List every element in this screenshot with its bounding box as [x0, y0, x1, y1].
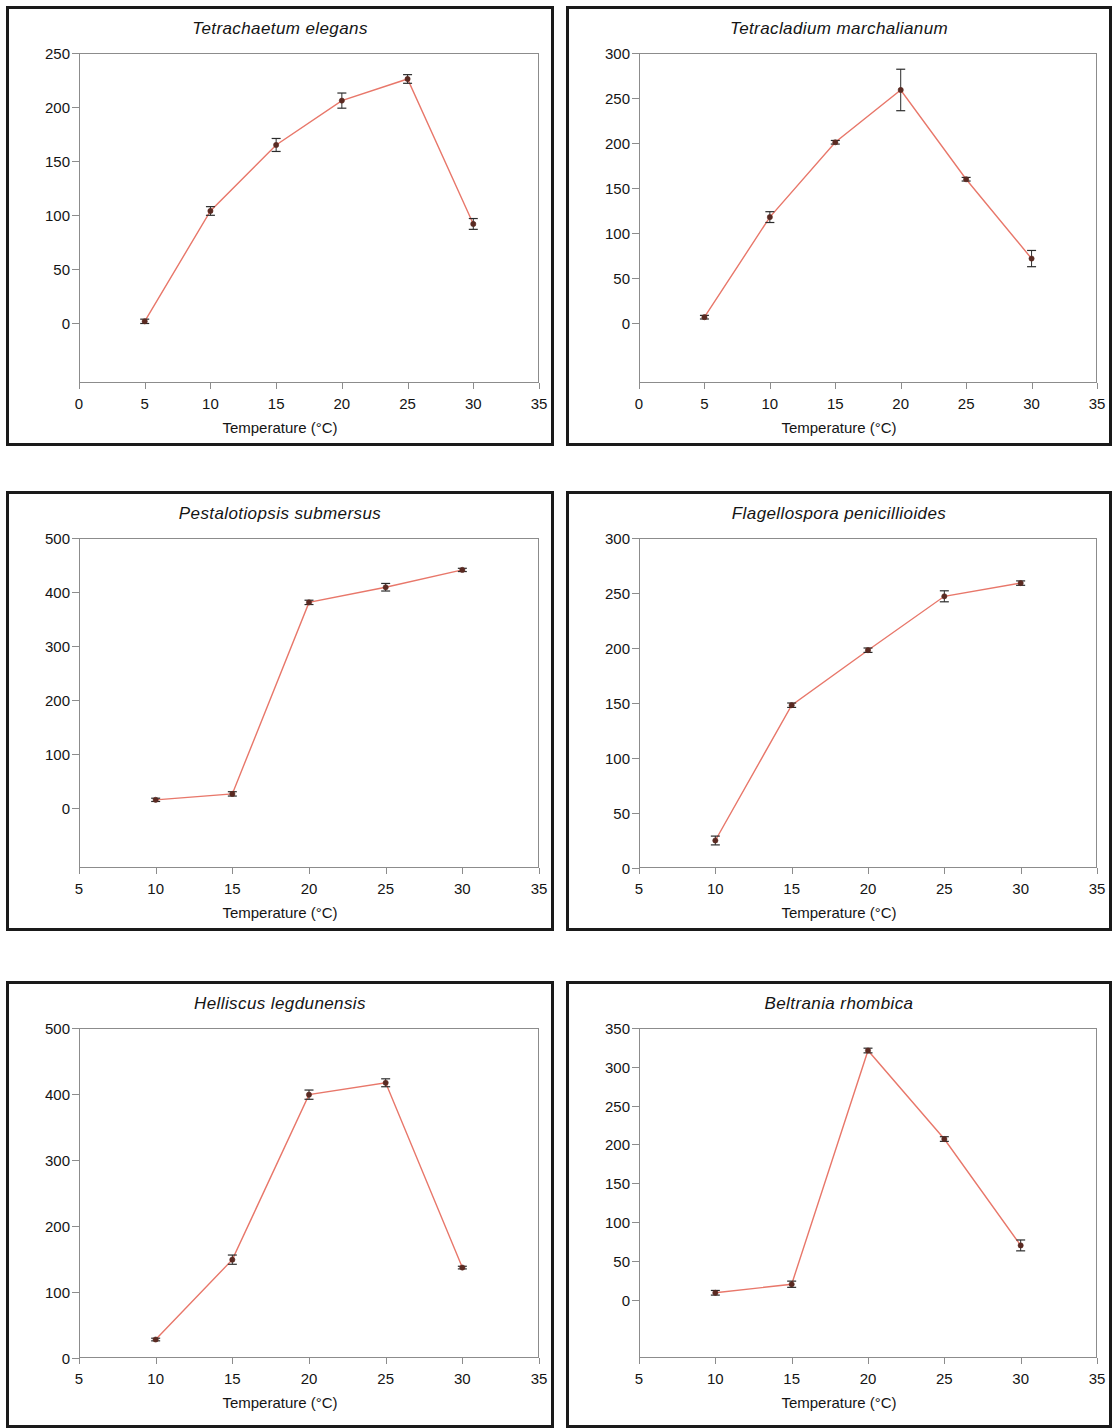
y-axis-tick-mark — [72, 1226, 79, 1227]
chart-title: Beltrania rhombica — [569, 994, 1109, 1014]
data-point — [896, 69, 905, 110]
x-axis-tick-mark — [1021, 1358, 1022, 1364]
plot-area: 01002003004005005101520253035 — [79, 538, 539, 868]
x-axis-tick-label: 20 — [860, 880, 877, 897]
chart-panel-pestalotiopsis-submersus: Pestalotiopsis submersus0100200300400500… — [6, 491, 554, 931]
y-axis-tick-mark — [632, 98, 639, 99]
y-axis-tick-mark — [632, 758, 639, 759]
x-axis-tick-label: 10 — [762, 395, 779, 412]
data-point — [140, 319, 149, 324]
chart-title: Helliscus legdunensis — [9, 994, 551, 1014]
x-axis-tick-label: 5 — [75, 1370, 83, 1387]
chart-panel-beltrania-rhombica: Beltrania rhombica0501001502002503003505… — [566, 981, 1112, 1428]
data-point — [864, 648, 873, 653]
x-axis-tick-label: 15 — [268, 395, 285, 412]
y-axis-tick-mark — [632, 538, 639, 539]
x-axis-tick-label: 35 — [1089, 395, 1106, 412]
x-axis-tick-mark — [539, 383, 540, 389]
x-axis-tick-label: 25 — [399, 395, 416, 412]
series-marker — [713, 1290, 718, 1295]
x-axis-tick-label: 35 — [531, 880, 548, 897]
plot-area: 01002003004005005101520253035 — [79, 1028, 539, 1358]
x-axis-tick-label: 30 — [1012, 880, 1029, 897]
data-point — [1027, 250, 1036, 266]
x-axis-tick-mark — [639, 868, 640, 874]
y-axis-tick-mark — [632, 278, 639, 279]
data-point — [403, 75, 412, 84]
y-axis-tick-mark — [72, 808, 79, 809]
series-marker — [339, 98, 344, 103]
y-axis-tick-mark — [632, 53, 639, 54]
data-point — [337, 93, 346, 108]
x-axis-tick-label: 20 — [892, 395, 909, 412]
y-axis-tick-mark — [72, 107, 79, 108]
series-marker — [789, 1282, 794, 1287]
x-axis-tick-label: 20 — [334, 395, 351, 412]
series-line — [145, 79, 474, 321]
x-axis-tick-mark — [792, 1358, 793, 1364]
x-axis-tick-label: 30 — [465, 395, 482, 412]
x-axis-tick-label: 15 — [224, 880, 241, 897]
x-axis-tick-mark — [539, 868, 540, 874]
y-axis-tick-mark — [632, 323, 639, 324]
y-axis-tick-mark — [72, 646, 79, 647]
x-axis-tick-mark — [944, 868, 945, 874]
x-axis-tick-label: 35 — [531, 395, 548, 412]
x-axis-tick-label: 10 — [202, 395, 219, 412]
series-marker — [208, 208, 213, 213]
chart-panel-flagellospora-penicillioides: Flagellospora penicillioides050100150200… — [566, 491, 1112, 931]
data-series — [79, 1028, 539, 1358]
series-marker — [230, 1257, 235, 1262]
series-marker — [767, 214, 772, 219]
plot-area: 05010015020025030005101520253035 — [639, 53, 1097, 383]
series-line — [715, 583, 1020, 840]
y-axis-tick-mark — [72, 1292, 79, 1293]
x-axis-title: Temperature (°C) — [569, 1394, 1109, 1411]
x-axis-tick-mark — [156, 1358, 157, 1364]
x-axis-tick-mark — [79, 383, 80, 389]
series-marker — [833, 140, 838, 145]
x-axis-tick-mark — [309, 868, 310, 874]
x-axis-tick-label: 20 — [301, 880, 318, 897]
x-axis-tick-label: 30 — [454, 880, 471, 897]
y-axis-tick-mark — [632, 233, 639, 234]
x-axis-tick-mark — [868, 868, 869, 874]
series-marker — [1018, 1243, 1023, 1248]
y-axis-tick-mark — [632, 703, 639, 704]
chart-title: Flagellospora penicillioides — [569, 504, 1109, 524]
y-axis-tick-mark — [72, 754, 79, 755]
series-marker — [471, 221, 476, 226]
series-marker — [460, 567, 465, 572]
x-axis-tick-mark — [639, 383, 640, 389]
series-marker — [1029, 256, 1034, 261]
data-point — [700, 315, 709, 320]
series-marker — [789, 703, 794, 708]
x-axis-tick-label: 25 — [936, 880, 953, 897]
y-axis-tick-mark — [632, 1067, 639, 1068]
x-axis-tick-label: 0 — [635, 395, 643, 412]
x-axis-tick-label: 0 — [75, 395, 83, 412]
x-axis-tick-label: 5 — [75, 880, 83, 897]
data-series — [639, 53, 1097, 383]
chart-panel-tetracladium-marchalianum: Tetracladium marchalianum050100150200250… — [566, 6, 1112, 446]
data-point — [962, 177, 971, 182]
x-axis-tick-label: 10 — [707, 880, 724, 897]
series-line — [156, 1083, 463, 1340]
series-marker — [274, 142, 279, 147]
x-axis-tick-label: 35 — [531, 1370, 548, 1387]
data-series — [639, 538, 1097, 868]
x-axis-tick-label: 30 — [1023, 395, 1040, 412]
data-point — [831, 140, 840, 145]
y-axis-tick-mark — [632, 1028, 639, 1029]
series-marker — [942, 594, 947, 599]
y-axis-tick-mark — [72, 1160, 79, 1161]
y-axis-tick-mark — [72, 215, 79, 216]
series-marker — [865, 648, 870, 653]
x-axis-tick-label: 30 — [454, 1370, 471, 1387]
x-axis-tick-label: 10 — [147, 1370, 164, 1387]
x-axis-tick-mark — [79, 1358, 80, 1364]
x-axis-tick-mark — [156, 868, 157, 874]
data-point — [272, 138, 281, 151]
x-axis-tick-mark — [1097, 383, 1098, 389]
